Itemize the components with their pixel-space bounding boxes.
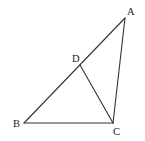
- vertex-label-d: D: [72, 53, 80, 64]
- segment-ca: [113, 18, 125, 123]
- vertex-label-c: C: [113, 126, 120, 137]
- vertex-label-a: A: [127, 6, 135, 17]
- vertex-label-b: B: [13, 118, 20, 129]
- segment-dc: [80, 65, 113, 123]
- triangle-diagram: A B C D: [0, 0, 145, 141]
- segment-ab: [24, 18, 125, 123]
- edges: [24, 18, 125, 123]
